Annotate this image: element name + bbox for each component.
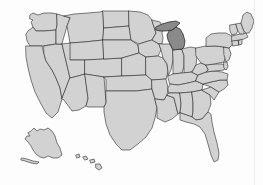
state-wyoming[interactable] — [70, 40, 104, 60]
state-south-dakota[interactable] — [103, 26, 131, 40]
hawaii-island-kauai[interactable] — [76, 154, 80, 158]
us-map-figure: Map of the United States with Michigan h… — [0, 0, 263, 185]
state-new-mexico[interactable] — [85, 74, 106, 107]
state-montana[interactable] — [64, 11, 104, 43]
state-pennsylvania[interactable] — [196, 46, 226, 65]
right-edge-rule — [254, 0, 255, 185]
us-map-svg: Map of the United States with Michigan h… — [0, 0, 263, 185]
state-new-york[interactable] — [206, 33, 234, 48]
state-north-dakota[interactable] — [103, 11, 129, 28]
hawaii-island-maui[interactable] — [90, 159, 95, 163]
state-indiana[interactable] — [173, 49, 184, 74]
state-colorado[interactable] — [85, 58, 122, 77]
state-alabama[interactable] — [180, 92, 193, 117]
state-oklahoma[interactable] — [104, 75, 152, 91]
